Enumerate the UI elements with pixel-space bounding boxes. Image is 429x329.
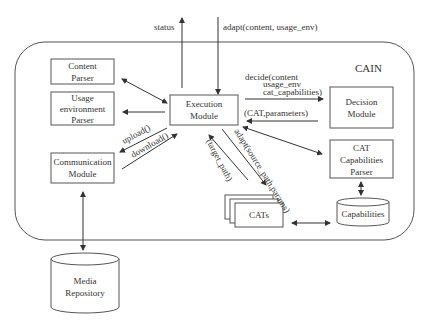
cain-label: CAIN bbox=[355, 62, 382, 74]
svg-text:Capabilities: Capabilities bbox=[340, 155, 383, 165]
capabilities-database: Capabilities bbox=[337, 198, 389, 226]
svg-text:Parser: Parser bbox=[71, 115, 94, 125]
cats-stack: CATs bbox=[225, 195, 283, 227]
media-repository-database: Media Repository bbox=[51, 253, 119, 313]
usage-environment-parser-box: Usage environment Parser bbox=[51, 92, 114, 125]
svg-text:environment: environment bbox=[60, 104, 106, 114]
execution-module-box: Execution Module bbox=[170, 95, 238, 125]
decide-label-3: cat_capabilities) bbox=[263, 87, 322, 97]
svg-text:Module: Module bbox=[69, 169, 97, 179]
svg-text:Module: Module bbox=[190, 111, 218, 121]
adapt-label: adapt(content, usage_env) bbox=[223, 22, 317, 32]
svg-text:Usage: Usage bbox=[71, 93, 94, 103]
edge-content-parser-execution bbox=[122, 79, 167, 103]
svg-text:Media: Media bbox=[74, 276, 97, 286]
cat-parameters-label: (CAT,parameters) bbox=[244, 108, 308, 118]
communication-module-box: Communication Module bbox=[51, 153, 114, 183]
svg-text:CATs: CATs bbox=[249, 210, 269, 220]
svg-text:CAT: CAT bbox=[353, 143, 371, 153]
svg-text:Parser: Parser bbox=[71, 73, 94, 83]
svg-text:Parser: Parser bbox=[350, 167, 373, 177]
status-label: status bbox=[154, 22, 175, 32]
svg-text:Module: Module bbox=[348, 109, 376, 119]
cain-architecture-diagram: CAIN status adapt(content, usage_env) Co… bbox=[0, 0, 429, 329]
svg-text:Decision: Decision bbox=[346, 97, 378, 107]
svg-text:Execution: Execution bbox=[186, 99, 223, 109]
cat-capabilities-parser-box: CAT Capabilities Parser bbox=[330, 140, 393, 178]
svg-text:Content: Content bbox=[68, 61, 97, 71]
content-parser-box: Content Parser bbox=[51, 59, 114, 84]
svg-text:Repository: Repository bbox=[65, 288, 105, 298]
svg-text:Capabilities: Capabilities bbox=[342, 209, 385, 219]
svg-text:Communication: Communication bbox=[54, 157, 112, 167]
decision-module-box: Decision Module bbox=[330, 87, 393, 128]
